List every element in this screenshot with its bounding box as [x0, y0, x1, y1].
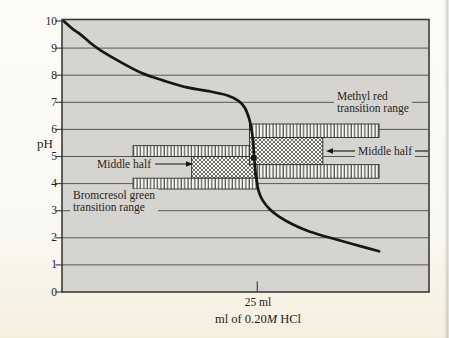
bromcresol-green-range-label-line1: Bromcresol green: [73, 190, 155, 202]
y-axis-tick-label-0: 0: [28, 286, 57, 299]
bromcresol-green-range-label-line2: transition range: [73, 202, 155, 214]
scan-edge-shadow: [444, 0, 449, 338]
titration-chart-canvas: [0, 0, 449, 338]
y-axis-tick-label-8: 8: [28, 69, 57, 82]
bromcresol-green-range-label: Bromcresol green transition range: [70, 189, 158, 214]
equivalence-point-dot: [251, 155, 257, 161]
methyl-red-range-label: Methyl red transition range: [334, 90, 412, 115]
x-axis-tick-label: 25 ml: [227, 296, 289, 308]
y-axis-tick-label-4: 4: [28, 177, 57, 190]
x-axis-title-post: HCl: [277, 312, 301, 326]
methyl-red-band-upper-quarter: [249, 124, 379, 138]
titration-figure: pH 109876543210 25 ml ml of 0.20M HCl Me…: [0, 0, 449, 338]
methyl-red-band-middle-half: [249, 138, 322, 165]
y-axis-tick-label-1: 1: [28, 258, 57, 271]
middle-half-label-right: Middle half: [355, 144, 415, 158]
methyl-red-range-label-line2: transition range: [337, 103, 409, 115]
y-axis-tick-label-9: 9: [28, 42, 57, 55]
bromcresol-green-band-lower-quarter: [133, 178, 257, 189]
bromcresol-green-band-upper-quarter: [133, 146, 251, 157]
y-axis-tick-label-6: 6: [28, 123, 57, 136]
middle-half-label-left: Middle half: [94, 157, 154, 171]
x-axis-title-molarity: M: [267, 312, 277, 326]
y-axis-tick-label-7: 7: [28, 96, 57, 109]
methyl-red-range-label-line1: Methyl red: [337, 91, 409, 103]
y-axis-tick-label-10: 10: [28, 15, 57, 28]
methyl-red-band-lower-quarter: [257, 165, 379, 179]
y-axis-tick-label-3: 3: [28, 204, 57, 217]
y-axis-tick-label-5: 5: [28, 150, 57, 163]
y-axis-tick-label-2: 2: [28, 231, 57, 244]
bromcresol-green-band-middle-half: [192, 157, 255, 179]
x-axis-title-pre: ml of 0.20: [215, 312, 267, 326]
x-axis-title: ml of 0.20M HCl: [158, 312, 358, 327]
